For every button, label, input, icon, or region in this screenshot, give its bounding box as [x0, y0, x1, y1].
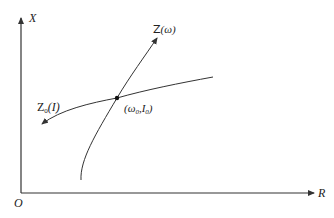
x-axis-label: R [318, 187, 325, 199]
z-omega-label: Z(ω) [153, 24, 176, 35]
intersection-label: (ω0,I0) [124, 103, 153, 116]
z-omega-label-arg: (ω) [161, 23, 176, 35]
diagram-canvas: X R O Z(ω) Z0(I) (ω0,I0) [0, 0, 334, 218]
z-omega-label-main: Z [153, 23, 161, 36]
intersection-label-open: (ω [124, 102, 135, 114]
z0-curve [42, 77, 213, 124]
intersection-point [115, 96, 119, 100]
y-axis-label: X [29, 12, 36, 24]
z0-label: Z0(I) [37, 101, 60, 115]
intersection-label-close: ) [149, 102, 153, 114]
z0-label-arg: (I) [48, 100, 60, 114]
origin-label: O [14, 197, 23, 209]
